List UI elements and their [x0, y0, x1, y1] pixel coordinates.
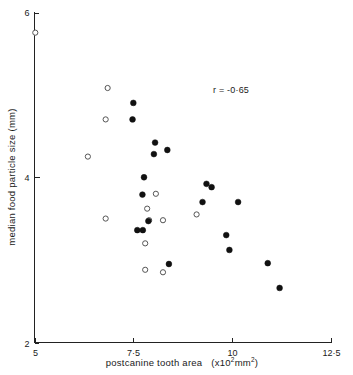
data-point-filled [235, 199, 241, 205]
correlation-annotation: r = -0·65 [213, 85, 249, 95]
data-point-open [105, 85, 110, 90]
x-axis-tick-labels: 57·51012·5 [33, 348, 341, 358]
data-point-open [103, 216, 108, 221]
data-point-open [143, 267, 148, 272]
y-axis-ticks [35, 13, 40, 343]
y-tick-label: 6 [24, 8, 29, 18]
x-axis-title: postcanine tooth area (x102mm2) [106, 356, 259, 368]
y-tick-label: 2 [24, 339, 29, 349]
open-circle-markers [33, 30, 199, 275]
data-point-open [103, 117, 108, 122]
y-axis-tick-labels: 246 [24, 8, 29, 349]
data-point-filled [130, 117, 136, 123]
x-axis-title-main: postcanine tooth area [106, 357, 203, 368]
data-point-filled [151, 151, 157, 157]
data-point-filled [140, 192, 146, 198]
scatter-plot-figure: 57·51012·5 246 r = -0·65 median food par… [0, 0, 353, 375]
data-point-open [33, 30, 38, 35]
data-point-filled [265, 260, 271, 266]
data-point-filled [141, 174, 147, 180]
data-point-filled [152, 140, 158, 146]
x-axis-units-prefix: (x10 [211, 357, 230, 368]
x-tick-label: 12·5 [322, 348, 340, 358]
data-point-filled [130, 100, 136, 106]
x-tick-label: 5 [33, 348, 38, 358]
data-point-filled [227, 247, 233, 253]
data-point-open [145, 206, 150, 211]
data-point-open [85, 154, 90, 159]
filled-circle-markers [130, 100, 283, 291]
data-point-filled [209, 184, 215, 190]
data-point-filled [200, 199, 206, 205]
x-axis-units-close: ) [255, 357, 258, 368]
data-point-open [160, 218, 165, 223]
y-axis-title: median food particle size (mm) [6, 108, 17, 245]
data-point-filled [134, 227, 140, 233]
x-axis-units-suffix: mm [235, 357, 251, 368]
data-point-open [143, 241, 148, 246]
x-tick-label: 7·5 [127, 348, 140, 358]
data-point-open [153, 191, 158, 196]
data-point-filled [204, 181, 210, 187]
plot-canvas: 57·51012·5 246 r = -0·65 median food par… [0, 0, 353, 375]
data-point-filled [164, 147, 170, 153]
data-point-filled [166, 261, 172, 267]
x-axis-ticks [36, 338, 332, 343]
data-point-filled [277, 285, 283, 291]
data-point-open [160, 270, 165, 275]
data-point-filled [145, 218, 151, 224]
data-point-filled [140, 227, 146, 233]
data-point-filled [223, 232, 229, 238]
data-point-open [194, 212, 199, 217]
y-tick-label: 4 [24, 173, 29, 183]
